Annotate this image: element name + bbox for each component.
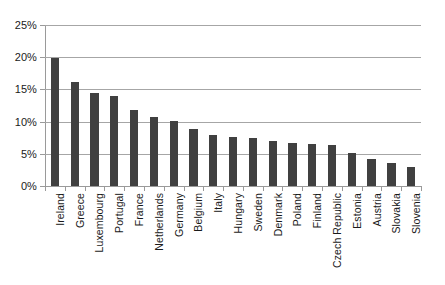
y-axis-tick-label: 25% bbox=[15, 20, 37, 31]
x-label-slot: Greece bbox=[65, 191, 85, 285]
x-label-slot: Slovakia bbox=[382, 191, 402, 285]
bar-slot bbox=[203, 25, 223, 186]
y-axis-tick-mark bbox=[40, 186, 45, 187]
bar bbox=[308, 144, 316, 186]
bar bbox=[328, 145, 336, 186]
bar-slot bbox=[45, 25, 65, 186]
x-label-slot: Czech Republic bbox=[322, 191, 342, 285]
x-label-slot: Estonia bbox=[342, 191, 362, 285]
bar-chart: 25%20%15%10%5%0% IrelandGreeceLuxembourg… bbox=[0, 0, 445, 285]
y-axis-tick-mark bbox=[40, 154, 45, 155]
x-label-slot: Italy bbox=[203, 191, 223, 285]
bar bbox=[229, 137, 237, 186]
bar bbox=[71, 82, 79, 186]
x-axis-category-labels: IrelandGreeceLuxembourgPortugalFranceNet… bbox=[45, 191, 421, 285]
bar-series bbox=[45, 25, 421, 186]
bar bbox=[288, 143, 296, 186]
y-axis-tick-label: 10% bbox=[15, 116, 37, 127]
x-label-slot: France bbox=[124, 191, 144, 285]
x-label-slot: Denmark bbox=[263, 191, 283, 285]
bar-slot bbox=[184, 25, 204, 186]
bar bbox=[387, 163, 395, 186]
bar-slot bbox=[342, 25, 362, 186]
bar bbox=[367, 159, 375, 186]
x-axis-category-label: Slovenia bbox=[411, 193, 422, 234]
bar-slot bbox=[164, 25, 184, 186]
bar-slot bbox=[223, 25, 243, 186]
x-label-slot: Belgium bbox=[184, 191, 204, 285]
x-label-slot: Hungary bbox=[223, 191, 243, 285]
x-label-slot: Ireland bbox=[45, 191, 65, 285]
x-label-slot: Finland bbox=[302, 191, 322, 285]
bar bbox=[170, 121, 178, 186]
y-axis-tick-mark bbox=[40, 122, 45, 123]
bar-slot bbox=[382, 25, 402, 186]
bar bbox=[150, 117, 158, 186]
x-label-slot: Poland bbox=[283, 191, 303, 285]
y-axis-tick-label: 5% bbox=[21, 148, 37, 159]
bar-slot bbox=[401, 25, 421, 186]
bar bbox=[407, 167, 415, 186]
bar-slot bbox=[263, 25, 283, 186]
x-label-slot: Sweden bbox=[243, 191, 263, 285]
bar-slot bbox=[144, 25, 164, 186]
x-label-slot: Germany bbox=[164, 191, 184, 285]
y-axis-tick-label: 0% bbox=[21, 181, 37, 192]
bar bbox=[189, 129, 197, 186]
bar bbox=[269, 141, 277, 186]
bar-slot bbox=[362, 25, 382, 186]
x-label-slot: Austria bbox=[362, 191, 382, 285]
y-axis-tick-mark bbox=[40, 89, 45, 90]
bar-slot bbox=[85, 25, 105, 186]
y-axis-tick-label: 20% bbox=[15, 52, 37, 63]
x-axis-tick-mark bbox=[421, 186, 422, 191]
bar bbox=[51, 58, 59, 186]
x-label-slot: Luxembourg bbox=[85, 191, 105, 285]
x-label-slot: Netherlands bbox=[144, 191, 164, 285]
bar bbox=[90, 93, 98, 186]
bar bbox=[209, 135, 217, 186]
y-axis-tick-mark bbox=[40, 25, 45, 26]
bar-slot bbox=[104, 25, 124, 186]
bar bbox=[249, 138, 257, 186]
bar-slot bbox=[124, 25, 144, 186]
y-axis-tick-label: 15% bbox=[15, 84, 37, 95]
bar-slot bbox=[283, 25, 303, 186]
bar-slot bbox=[302, 25, 322, 186]
bar-slot bbox=[322, 25, 342, 186]
x-label-slot: Portugal bbox=[104, 191, 124, 285]
y-axis-tick-mark bbox=[40, 57, 45, 58]
x-label-slot: Slovenia bbox=[401, 191, 421, 285]
bar bbox=[110, 96, 118, 186]
bar-slot bbox=[243, 25, 263, 186]
y-axis-tick-labels: 25%20%15%10%5%0% bbox=[0, 0, 44, 195]
bar bbox=[130, 110, 138, 186]
bar-slot bbox=[65, 25, 85, 186]
bar bbox=[348, 153, 356, 186]
